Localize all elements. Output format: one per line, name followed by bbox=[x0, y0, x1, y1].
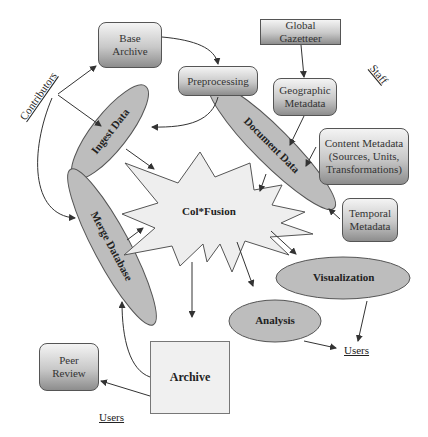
archive-label: Archive bbox=[170, 370, 210, 385]
arrow-contributors-merge bbox=[38, 98, 75, 218]
geographic-metadata-box: Geographic Metadata bbox=[273, 78, 337, 116]
arrow-contributors-ingest bbox=[58, 95, 101, 126]
arrow-preprocessing-ingest bbox=[152, 97, 218, 127]
arrow-temporal-document bbox=[329, 209, 340, 219]
arrow-colfusion-analysis bbox=[237, 242, 253, 286]
preprocessing-label: Preprocessing bbox=[187, 75, 249, 88]
colfusion-label: Col*Fusion bbox=[182, 205, 236, 217]
arrow-merge-colfusion bbox=[127, 228, 143, 240]
global-gazetteer-label: Global Gazetteer bbox=[273, 19, 328, 45]
peer-review-label: Peer Review bbox=[51, 354, 87, 380]
visualization-label: Visualization bbox=[313, 271, 373, 283]
arrow-analysis-users bbox=[304, 341, 336, 348]
arrow-archive-peer bbox=[101, 381, 150, 396]
users-right-label: Users bbox=[344, 344, 369, 356]
users-bottom-label: Users bbox=[99, 411, 124, 423]
temporal-metadata-box: Temporal Metadata bbox=[342, 198, 398, 242]
arrow-geographic-document bbox=[290, 116, 304, 145]
global-gazetteer-box: Global Gazetteer bbox=[260, 19, 341, 45]
temporal-metadata-label: Temporal Metadata bbox=[343, 207, 397, 233]
preprocessing-box: Preprocessing bbox=[178, 66, 258, 96]
arrow-gazetteer-geographic bbox=[301, 45, 304, 77]
content-metadata-box: Content Metadata (Sources, Units, Transf… bbox=[319, 128, 409, 185]
base-archive-box: Base Archive bbox=[98, 22, 162, 68]
arrow-visualization-users bbox=[358, 301, 367, 341]
arrow-base-preprocessing bbox=[162, 37, 218, 64]
archive-box: Archive bbox=[150, 341, 230, 414]
content-metadata-label: Content Metadata (Sources, Units, Transf… bbox=[321, 137, 407, 176]
base-archive-label: Base Archive bbox=[110, 32, 150, 58]
geographic-metadata-label: Geographic Metadata bbox=[275, 84, 335, 110]
analysis-label: Analysis bbox=[250, 314, 300, 326]
arrow-contributors-base-archive bbox=[58, 66, 96, 94]
peer-review-box: Peer Review bbox=[39, 343, 99, 391]
